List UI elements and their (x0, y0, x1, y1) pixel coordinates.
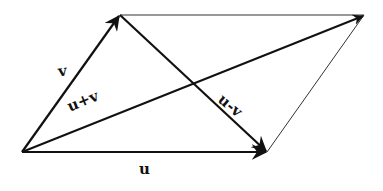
vector-parallelogram-diagram (0, 0, 383, 191)
vector-u-minus-v-arrow (120, 15, 266, 151)
label-v: v (57, 63, 68, 79)
label-u: u (139, 162, 150, 177)
